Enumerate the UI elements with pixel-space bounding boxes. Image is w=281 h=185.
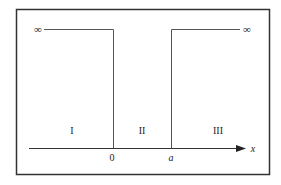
infinity-left-label: ∞ xyxy=(34,23,42,35)
tick-label-zero: 0 xyxy=(110,152,115,163)
x-axis-arrowhead-icon xyxy=(236,145,246,152)
potential-well-diagram: ∞ ∞ I II III 0 a x xyxy=(0,0,281,185)
tick-label-a: a xyxy=(169,152,174,163)
region-2-label: II xyxy=(139,125,146,136)
diagram-frame xyxy=(17,10,270,175)
region-1-label: I xyxy=(70,125,73,136)
x-axis-label: x xyxy=(250,143,256,154)
infinity-right-label: ∞ xyxy=(243,23,251,35)
region-3-label: III xyxy=(213,125,223,136)
